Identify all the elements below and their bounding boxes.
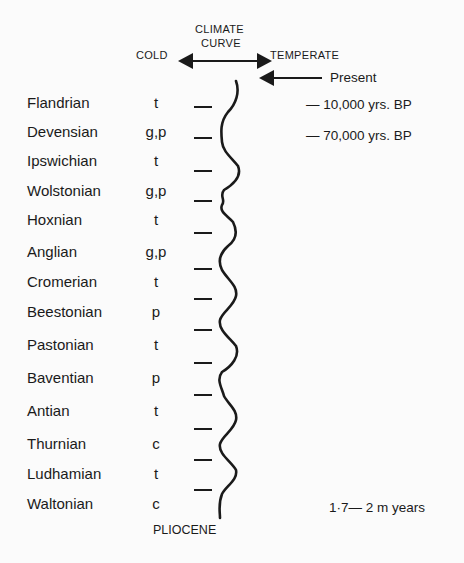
pliocene-label: PLIOCENE bbox=[153, 523, 216, 537]
stage-code: t bbox=[131, 336, 181, 353]
present-label: Present bbox=[330, 70, 377, 85]
stage-code: p bbox=[131, 303, 181, 320]
cold-temperate-arrow-icon bbox=[178, 53, 272, 69]
stage-name: Ludhamian bbox=[27, 465, 101, 482]
stage-name: Hoxnian bbox=[27, 211, 82, 228]
mark-10000-bp: — 10,000 yrs. BP bbox=[306, 97, 412, 112]
stage-code: g,p bbox=[131, 123, 181, 140]
stage-code: t bbox=[131, 94, 181, 111]
stage-name: Beestonian bbox=[27, 303, 102, 320]
stage-name: Wolstonian bbox=[27, 182, 101, 199]
stage-name: Baventian bbox=[27, 369, 94, 386]
present-arrow-icon bbox=[259, 70, 322, 86]
stage-code: c bbox=[131, 435, 181, 452]
stage-name: Cromerian bbox=[27, 273, 97, 290]
stage-name: Pastonian bbox=[27, 336, 94, 353]
mark-70000-bp: — 70,000 yrs. BP bbox=[306, 128, 412, 143]
stage-name: Ipswichian bbox=[27, 152, 97, 169]
base-age-label: 1·7— 2 m years bbox=[329, 500, 425, 515]
stage-code: c bbox=[131, 495, 181, 512]
stage-code: g,p bbox=[131, 182, 181, 199]
stage-name: Antian bbox=[27, 402, 70, 419]
climate-curve-line bbox=[219, 81, 239, 518]
stage-name: Flandrian bbox=[27, 94, 90, 111]
stage-code: g,p bbox=[131, 243, 181, 260]
stage-name: Thurnian bbox=[27, 435, 86, 452]
stage-code: t bbox=[131, 273, 181, 290]
stage-code: t bbox=[131, 152, 181, 169]
stage-code: t bbox=[131, 402, 181, 419]
stage-code: t bbox=[131, 211, 181, 228]
stage-boundary-ticks bbox=[194, 107, 212, 490]
stage-code: t bbox=[131, 465, 181, 482]
stage-code: p bbox=[131, 369, 181, 386]
stage-name: Anglian bbox=[27, 243, 77, 260]
stage-name: Waltonian bbox=[27, 495, 93, 512]
stage-name: Devensian bbox=[27, 123, 98, 140]
